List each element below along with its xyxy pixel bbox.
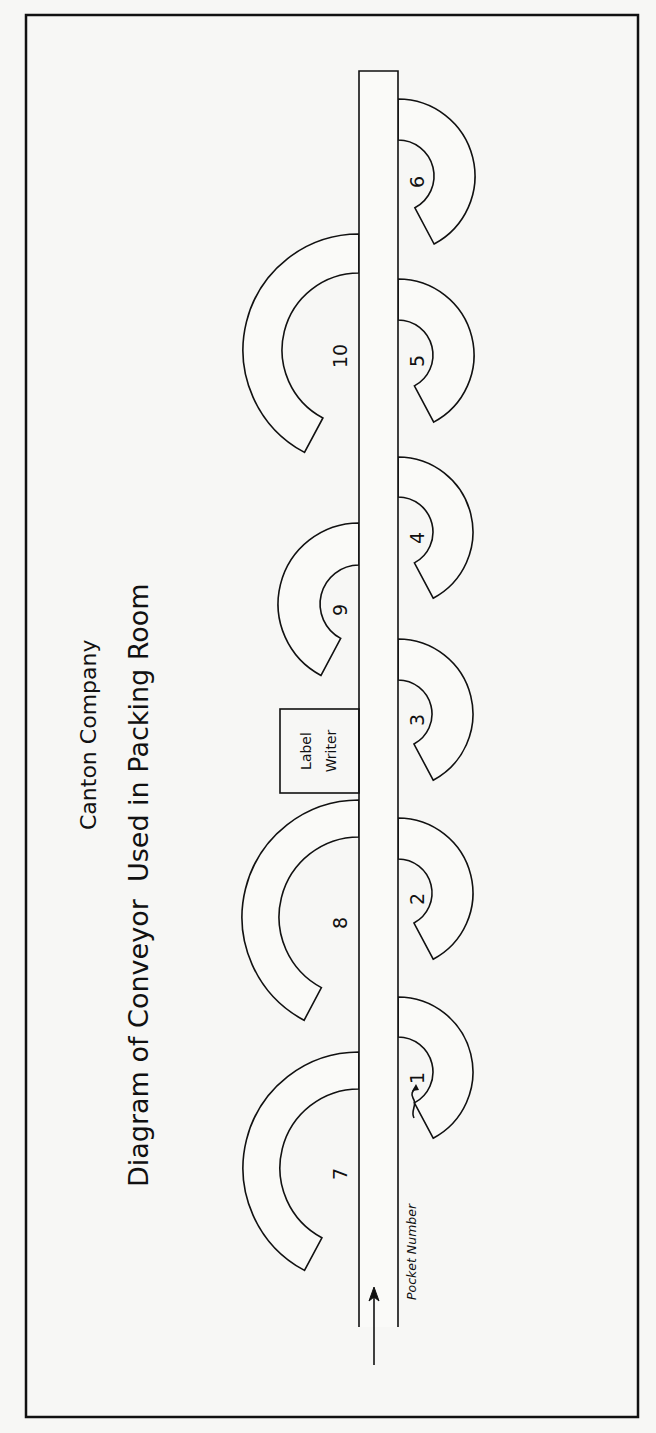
conveyor-belt: [359, 71, 398, 1327]
pocket-10: 10: [243, 234, 359, 452]
company-title: Canton Company: [76, 640, 101, 830]
pocket-shape: [242, 800, 359, 1020]
pocket-4: 4: [398, 457, 473, 598]
pocket-number: 6: [406, 176, 428, 188]
pocket-6: 6: [398, 99, 475, 244]
pocket-number: 3: [406, 714, 428, 726]
pocket-shape: [243, 1052, 359, 1270]
label-writer-line2: Writer: [323, 729, 339, 772]
pocket-number: 7: [329, 1168, 351, 1180]
pocket-7: 7: [243, 1052, 359, 1270]
pocket-shape: [398, 639, 473, 780]
pocket-number: 4: [406, 532, 428, 544]
label-writer-box: Label Writer: [280, 709, 359, 793]
pocket-number: 8: [329, 917, 351, 929]
pocket-number: 2: [406, 893, 428, 905]
pocket-8: 8: [242, 800, 359, 1020]
pocket-number: 1: [406, 1072, 428, 1084]
pocket-shape: [398, 99, 475, 244]
conveyor-diagram: Canton Company Diagram of Conveyor Used …: [0, 0, 656, 1433]
pocket-number: 9: [329, 604, 351, 616]
label-writer-line1: Label: [298, 732, 314, 770]
pocket-shape: [398, 457, 473, 598]
pocket-shape: [243, 234, 359, 452]
diagram-title: Diagram of Conveyor Used in Packing Room: [123, 583, 154, 1187]
pocket-5: 5: [398, 279, 474, 422]
pocket-number-label: Pocket Number: [404, 1203, 419, 1300]
squiggle-arrowhead-icon: [412, 1084, 419, 1091]
pocket-number: 5: [406, 355, 428, 367]
pocket-3: 3: [398, 639, 473, 780]
pocket-number: 10: [329, 344, 351, 368]
pocket-shape: [398, 818, 473, 959]
pocket-9: 9: [278, 523, 359, 676]
pocket-shape: [398, 279, 474, 422]
pocket-2: 2: [398, 818, 473, 959]
pocket-1: 1: [398, 997, 473, 1138]
pocket-shape: [398, 997, 473, 1138]
pocket-shape: [278, 523, 359, 676]
diagram-frame: [26, 15, 638, 1417]
